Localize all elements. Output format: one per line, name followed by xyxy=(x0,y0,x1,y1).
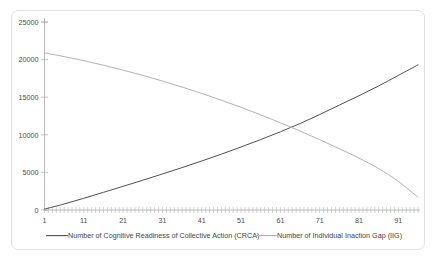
x-axis: 1112131415161718191 xyxy=(43,207,421,225)
y-tick-label: 0 xyxy=(35,206,39,215)
x-tick-label: 41 xyxy=(198,216,206,225)
chart-legend: Number of Cognitive Readiness of Collect… xyxy=(46,231,402,240)
legend-label-2: Number of Individual Inaction Gap (IIG) xyxy=(277,231,402,240)
series-lines xyxy=(45,53,419,209)
x-tick-label: 81 xyxy=(355,216,363,225)
x-tick-label: 91 xyxy=(394,216,402,225)
chart-container: 0500010000150002000025000 11121314151617… xyxy=(0,0,438,260)
y-tick-label: 20000 xyxy=(19,55,39,64)
x-tick-label: 51 xyxy=(237,216,245,225)
line-chart: 0500010000150002000025000 11121314151617… xyxy=(0,0,438,260)
series-line-1 xyxy=(45,65,419,209)
x-tick-label: 71 xyxy=(316,216,324,225)
y-axis-tick-labels: 0500010000150002000025000 xyxy=(19,18,39,215)
y-axis: 0500010000150002000025000 xyxy=(19,18,49,215)
x-tick-label: 1 xyxy=(43,216,47,225)
x-tick-label: 21 xyxy=(119,216,127,225)
x-tick-label: 61 xyxy=(276,216,284,225)
legend-label-1: Number of Cognitive Readiness of Collect… xyxy=(68,231,259,240)
y-tick-label: 5000 xyxy=(23,168,39,177)
y-tick-label: 15000 xyxy=(19,93,39,102)
series-line-2 xyxy=(45,53,419,197)
y-tick-label: 25000 xyxy=(19,18,39,27)
x-tick-label: 31 xyxy=(158,216,166,225)
x-tick-label: 11 xyxy=(80,216,87,225)
y-tick-label: 10000 xyxy=(19,131,39,140)
x-axis-tick-labels: 1112131415161718191 xyxy=(43,216,403,225)
